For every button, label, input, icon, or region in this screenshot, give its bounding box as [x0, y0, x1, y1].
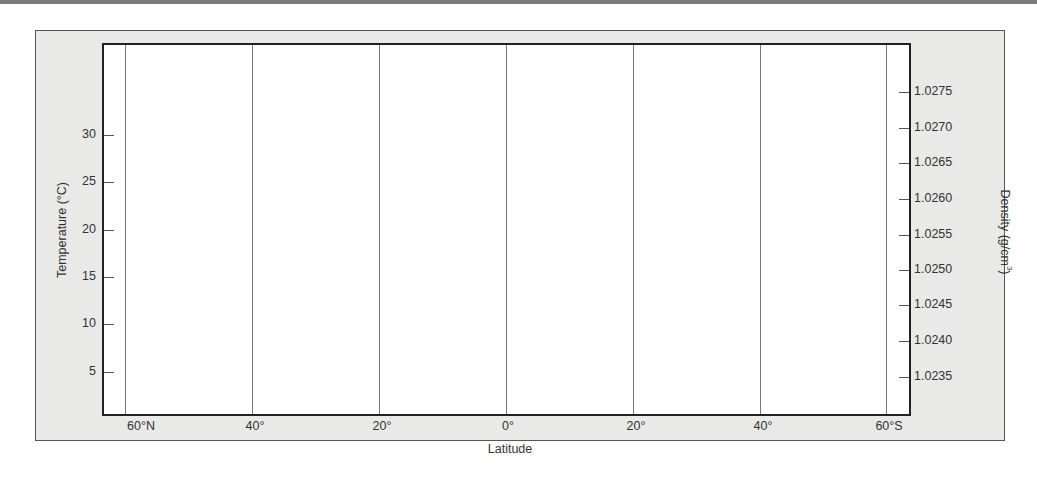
gridline-60S — [886, 45, 887, 414]
right-tick-5 — [899, 235, 909, 236]
y2-tick-label: 1.0245 — [914, 297, 952, 311]
y-tick-label: 5 — [66, 364, 96, 378]
gridline-40N — [252, 45, 253, 414]
left-tick-15 — [104, 277, 114, 278]
x-tick-label: 60°N — [116, 419, 166, 433]
x-tick-label: 20° — [611, 419, 661, 433]
x-tick-label: 0° — [483, 419, 533, 433]
left-tick-25 — [104, 182, 114, 183]
y-tick-label: 15 — [66, 269, 96, 283]
y-axis-right-title-end: ) — [998, 270, 1012, 274]
left-tick-5 — [104, 372, 114, 373]
x-tick-label: 40° — [230, 419, 280, 433]
y2-tick-label: 1.0275 — [914, 84, 952, 98]
y2-tick-label: 1.0265 — [914, 155, 952, 169]
x-axis-title: Latitude — [455, 442, 565, 456]
left-tick-10 — [104, 324, 114, 325]
top-border-strip — [0, 0, 1037, 4]
right-tick-6 — [899, 270, 909, 271]
y2-tick-label: 1.0235 — [914, 369, 952, 383]
plot-area — [102, 43, 911, 416]
gridline-40S — [760, 45, 761, 414]
y-tick-label: 10 — [66, 316, 96, 330]
y2-tick-label: 1.0240 — [914, 333, 952, 347]
x-tick-label: 20° — [357, 419, 407, 433]
y2-tick-label: 1.0255 — [914, 227, 952, 241]
gridline-0 — [506, 45, 507, 414]
right-tick-7 — [899, 305, 909, 306]
y2-tick-label: 1.0260 — [914, 191, 952, 205]
right-tick-3 — [899, 163, 909, 164]
y-tick-label: 20 — [66, 222, 96, 236]
y-axis-right-title-main: Density (g/cm — [998, 189, 1012, 265]
right-tick-1 — [899, 92, 909, 93]
right-tick-4 — [899, 199, 909, 200]
x-tick-label: 60°S — [864, 419, 914, 433]
y-axis-left-title: Temperature (°C) — [55, 182, 69, 278]
x-tick-label: 40° — [738, 419, 788, 433]
gridline-60N — [125, 45, 126, 414]
y-tick-label: 30 — [66, 127, 96, 141]
right-tick-2 — [899, 128, 909, 129]
y-tick-label: 25 — [66, 174, 96, 188]
right-tick-8 — [899, 341, 909, 342]
gridline-20N — [379, 45, 380, 414]
gridline-20S — [633, 45, 634, 414]
left-tick-30 — [104, 135, 114, 136]
y2-tick-label: 1.0250 — [914, 262, 952, 276]
y-axis-right-title: Density (g/cm3) — [998, 189, 1013, 274]
right-tick-9 — [899, 377, 909, 378]
y2-tick-label: 1.0270 — [914, 120, 952, 134]
left-tick-20 — [104, 230, 114, 231]
